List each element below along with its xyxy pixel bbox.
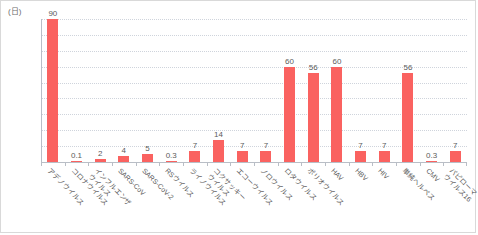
- x-axis-tick-slot: [278, 162, 302, 166]
- bar-value-label: 56: [309, 63, 318, 72]
- bar-slot: 60: [325, 19, 349, 162]
- x-axis-label-slot: HIV: [372, 167, 396, 233]
- x-axis-tick-slot: [159, 162, 183, 166]
- x-axis-tick-mark: [183, 162, 184, 166]
- chart-figure: (日) 0102030405060708090 900.12450.371477…: [0, 0, 476, 233]
- x-axis-tick-slot: [325, 162, 349, 166]
- x-axis-tick-slot: [230, 162, 254, 166]
- bar: 60: [284, 67, 295, 162]
- bar-slot: 7: [372, 19, 396, 162]
- bar-value-label: 0.3: [426, 151, 437, 160]
- bar-slot: 56: [396, 19, 420, 162]
- x-axis-tick-mark: [207, 162, 208, 166]
- x-axis-tick-mark: [136, 162, 137, 166]
- x-axis-category-label: HAV: [330, 167, 345, 182]
- bar-value-label: 0.1: [71, 151, 82, 160]
- x-axis-tick-mark: [254, 162, 255, 166]
- bar-value-label: 7: [193, 141, 197, 150]
- bar-value-label: 60: [285, 57, 294, 66]
- bar-slot: 7: [230, 19, 254, 162]
- bar: 7: [260, 151, 271, 162]
- bar-value-label: 90: [48, 9, 57, 18]
- x-axis-tick-slot: [207, 162, 231, 166]
- x-axis-tick-mark: [372, 162, 373, 166]
- x-axis-label-slot: コロナウイルス: [65, 167, 89, 233]
- x-axis-tick-mark: [301, 162, 302, 166]
- x-axis-tick-slot: [301, 162, 325, 166]
- bar: 7: [189, 151, 200, 162]
- bar: 56: [308, 73, 319, 162]
- bar: 56: [402, 73, 413, 162]
- x-axis-label-slot: HAV: [325, 167, 349, 233]
- bar: 5: [142, 154, 153, 162]
- bar-slot: 7: [349, 19, 373, 162]
- bar-slot: 5: [136, 19, 160, 162]
- bar-series: 900.12450.37147760566077560.37: [41, 19, 467, 162]
- x-axis-tick-slot: [349, 162, 373, 166]
- x-axis-tick-mark: [349, 162, 350, 166]
- x-axis-tick-mark: [159, 162, 160, 166]
- x-axis-label-slot: インフルエンザ ウイルス: [88, 167, 112, 233]
- x-axis-tick-mark: [466, 162, 467, 166]
- bar-value-label: 7: [358, 141, 362, 150]
- bar-value-label: 7: [240, 141, 244, 150]
- x-axis-label-slot: SARS-CoV-2: [136, 167, 160, 233]
- x-axis-category-label: パピローマ ウイルス16: [443, 167, 478, 203]
- x-axis-label-slot: CMV: [420, 167, 444, 233]
- x-axis-tick-mark: [396, 162, 397, 166]
- bar: 7: [379, 151, 390, 162]
- bar-slot: 7: [183, 19, 207, 162]
- bar-value-label: 2: [98, 149, 102, 158]
- bar-slot: 14: [207, 19, 231, 162]
- x-axis-ticks: [41, 162, 467, 166]
- bar-slot: 60: [278, 19, 302, 162]
- x-axis-tick-slot: [88, 162, 112, 166]
- x-axis-tick-mark: [65, 162, 66, 166]
- x-axis-category-label: HIV: [377, 167, 391, 181]
- x-axis-tick-slot: [396, 162, 420, 166]
- x-axis-label-slot: アデノウイルス: [41, 167, 65, 233]
- bar-value-label: 7: [382, 141, 386, 150]
- bar-slot: 0.3: [159, 19, 183, 162]
- bar-slot: 7: [254, 19, 278, 162]
- bar-slot: 2: [88, 19, 112, 162]
- bar: 7: [355, 151, 366, 162]
- x-axis-tick-mark: [443, 162, 444, 166]
- plot-area: 900.12450.37147760566077560.37: [41, 19, 467, 162]
- bar: 7: [237, 151, 248, 162]
- bar-slot: 0.3: [420, 19, 444, 162]
- x-axis-label-slot: HBV: [349, 167, 373, 233]
- x-axis-label-slot: ポリオウイルス: [301, 167, 325, 233]
- x-axis-tick-slot: [183, 162, 207, 166]
- x-axis-tick-mark: [112, 162, 113, 166]
- x-axis-label-slot: SARS-CoV: [112, 167, 136, 233]
- x-axis-tick-slot: [254, 162, 278, 166]
- bar-value-label: 56: [403, 63, 412, 72]
- x-axis-tick-slot: [420, 162, 444, 166]
- x-axis-label-slot: コクサッキー ウイルス: [207, 167, 231, 233]
- x-axis-tick-slot: [136, 162, 160, 166]
- x-axis-tick-slot: [112, 162, 136, 166]
- bar-value-label: 4: [122, 146, 126, 155]
- x-axis-label-slot: ロタウイルス: [278, 167, 302, 233]
- bar: 7: [450, 151, 461, 162]
- x-axis-tick-slot: [372, 162, 396, 166]
- x-axis-tick-mark: [278, 162, 279, 166]
- x-axis-category-label: CMV: [424, 167, 440, 183]
- bar-slot: 90: [41, 19, 65, 162]
- x-axis-tick-slot: [443, 162, 467, 166]
- x-axis-label-slot: RSウイルス: [159, 167, 183, 233]
- bar-slot: 56: [301, 19, 325, 162]
- bar-value-label: 60: [332, 57, 341, 66]
- bar-slot: 4: [112, 19, 136, 162]
- bar-slot: 0.1: [65, 19, 89, 162]
- bar-value-label: 0.3: [166, 151, 177, 160]
- x-axis-tick-mark: [88, 162, 89, 166]
- x-axis-label-slot: パピローマ ウイルス16: [443, 167, 467, 233]
- x-axis-tick-mark: [41, 162, 42, 166]
- x-axis-tick-mark: [420, 162, 421, 166]
- x-axis-tick-mark: [325, 162, 326, 166]
- x-axis-label-slot: 単純ヘルペス: [396, 167, 420, 233]
- x-axis-label-slot: ライノウイルス: [183, 167, 207, 233]
- bar: 60: [331, 67, 342, 162]
